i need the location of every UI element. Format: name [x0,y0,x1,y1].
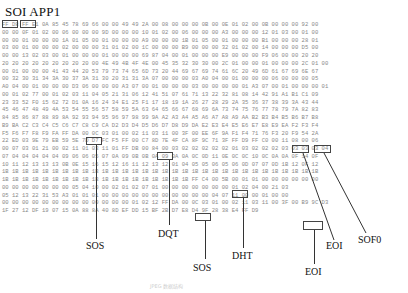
label-eoi-2: EOI [305,266,322,277]
label-eoi-1: EOI [326,240,343,251]
label-sos-1: SOS [86,240,104,251]
diagonal-leaders [0,0,408,293]
label-sos-2: SOS [193,262,211,273]
label-dht: DHT [232,250,253,261]
label-dqt: DQT [158,228,179,239]
figure-caption: JPEG 数据结构 [150,282,183,289]
label-sof0: SOF0 [358,234,381,245]
